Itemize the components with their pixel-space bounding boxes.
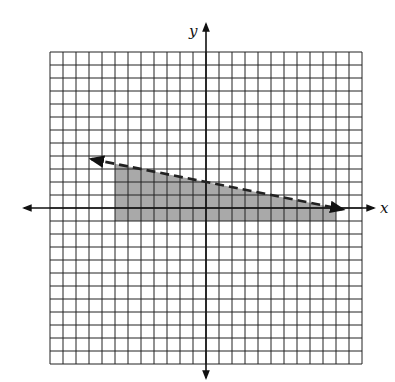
shaded-solution-region bbox=[115, 164, 336, 221]
y-axis-label: y bbox=[188, 22, 198, 40]
x-axis-label: x bbox=[380, 199, 389, 217]
shaded-polygon bbox=[115, 164, 336, 221]
coordinate-plane: x y bbox=[0, 0, 395, 382]
